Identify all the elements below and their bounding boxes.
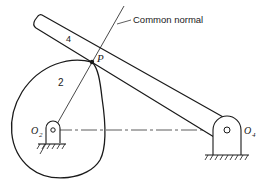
- common-normal-label: Common normal: [133, 14, 203, 25]
- contact-point-p: [90, 60, 94, 64]
- cam-mechanism-diagram: Common normal P 4 2 O 2 O 4: [0, 0, 264, 186]
- o4-subscript: 4: [252, 131, 256, 139]
- o2-label: O: [31, 125, 38, 136]
- o4-label: O: [244, 125, 251, 136]
- link-4-label: 4: [66, 34, 71, 44]
- o2-subscript: 2: [39, 131, 43, 139]
- common-normal-leader: [117, 20, 131, 24]
- follower-link-4: [34, 15, 232, 137]
- contact-point-label: P: [96, 52, 104, 64]
- cam-2-label: 2: [58, 77, 64, 88]
